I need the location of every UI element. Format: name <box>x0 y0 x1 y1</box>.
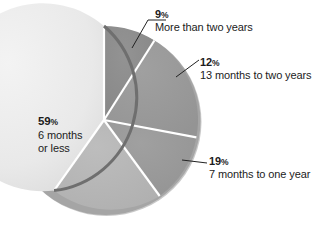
pie-chart: 9% More than two years 12% 13 months to … <box>0 0 322 235</box>
pie-label-more-than-two-years: 9% More than two years <box>155 8 253 34</box>
pie-label-description: 13 months to two years <box>200 69 312 82</box>
pie-label-description: 7 months to one year <box>209 168 310 181</box>
pie-label-6-months-or-less: 59% 6 months or less <box>38 115 82 155</box>
pie-label-description: More than two years <box>155 21 253 34</box>
pie-label-percent: 12% <box>200 56 312 69</box>
pie-label-13-months-to-two-years: 12% 13 months to two years <box>200 56 312 82</box>
pie-label-7-months-to-one-year: 19% 7 months to one year <box>209 155 310 181</box>
pie-label-percent: 59% <box>38 115 82 129</box>
pie-label-percent: 19% <box>209 155 310 168</box>
pie-label-description: 6 months or less <box>38 129 82 155</box>
pie-label-percent: 9% <box>155 8 253 21</box>
